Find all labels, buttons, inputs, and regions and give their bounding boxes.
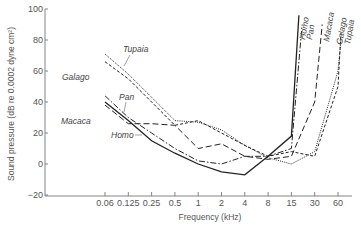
x-tick-label: 0.25 xyxy=(143,198,161,208)
curve-tupaia xyxy=(105,40,341,164)
leader-tupaia xyxy=(124,55,130,66)
y-tick-label: 60 xyxy=(33,66,43,76)
x-tick-label: 15 xyxy=(286,198,296,208)
x-tick-label: 0.125 xyxy=(117,198,140,208)
x-tick-label: 0.06 xyxy=(96,198,114,208)
x-tick-label: 60 xyxy=(333,198,343,208)
x-ticks: 0.060.1250.250.51248153060 xyxy=(96,192,343,208)
label-pan-top: Pan xyxy=(304,23,317,40)
y-tick-label: 80 xyxy=(33,35,43,45)
x-tick-label: 2 xyxy=(219,198,224,208)
x-tick-label: 1 xyxy=(196,198,201,208)
label-pan: Pan xyxy=(119,92,134,102)
y-tick-label: 40 xyxy=(33,97,43,107)
label-macaca: Macaca xyxy=(61,116,91,126)
label-macaca-top: Macaca xyxy=(321,11,336,42)
x-tick-label: 0.5 xyxy=(169,198,182,208)
y-tick-label: −20 xyxy=(28,190,43,200)
x-tick-label: 30 xyxy=(310,198,320,208)
x-tick-label: 8 xyxy=(266,198,271,208)
chart: 100806040200−20 0.060.1250.250.512481530… xyxy=(0,0,361,230)
y-tick-label: 20 xyxy=(33,128,43,138)
x-tick-label: 4 xyxy=(242,198,247,208)
label-tupaia: Tupaia xyxy=(123,44,149,54)
y-tick-label: 0 xyxy=(38,159,43,169)
y-tick-label: 100 xyxy=(28,4,43,14)
x-axis-title: Frequency (kHz) xyxy=(179,212,242,222)
leader-pan xyxy=(124,102,126,112)
label-homo: Homo xyxy=(111,130,134,140)
y-axis-title: Sound pressure (dB re 0.0002 dyne cm²) xyxy=(6,27,16,181)
label-galago: Galago xyxy=(62,72,90,82)
